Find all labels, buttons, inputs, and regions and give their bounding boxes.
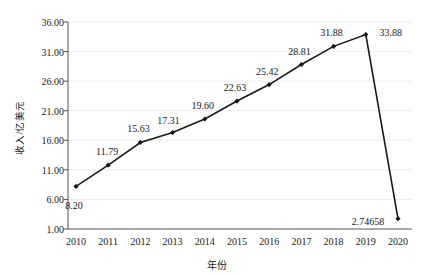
x-axis-title-text: 年份 [207, 260, 227, 271]
x-axis-tick-label: 2011 [98, 236, 118, 247]
line-chart: 收入/亿美元 1.006.0011.0016.0021.0026.0031.00… [0, 0, 434, 274]
x-axis-tick-label: 2010 [66, 236, 86, 247]
x-axis-title: 年份 [0, 257, 434, 272]
data-point-label: 28.81 [288, 45, 311, 56]
axis-lines [68, 22, 412, 229]
gridlines [68, 22, 412, 199]
data-point-label: 33.88 [380, 26, 403, 37]
x-axis-tick-label: 2013 [163, 236, 183, 247]
plot-area [0, 0, 434, 274]
data-point-marker[interactable] [395, 216, 400, 221]
x-axis-tick-label: 2012 [130, 236, 150, 247]
data-point-label: 8.20 [65, 200, 83, 211]
x-axis-tick-label: 2015 [227, 236, 247, 247]
x-axis-tick-label: 2018 [324, 236, 344, 247]
data-point-label: 2.74658 [352, 215, 385, 226]
x-axis-tick-label: 2016 [259, 236, 279, 247]
x-axis-tick-label: 2020 [388, 236, 408, 247]
data-point-label: 31.88 [320, 27, 343, 38]
x-axis-tick-label: 2019 [356, 236, 376, 247]
data-point-label: 17.31 [157, 114, 180, 125]
data-point-label: 25.42 [256, 65, 279, 76]
data-point-marker[interactable] [170, 130, 175, 135]
data-point-markers [73, 32, 400, 221]
data-point-label: 15.63 [127, 123, 150, 134]
data-point-label: 11.79 [96, 146, 118, 157]
y-axis-ticks [64, 22, 68, 229]
x-axis-tick-label: 2017 [291, 236, 311, 247]
data-point-label: 22.63 [224, 82, 247, 93]
x-axis-tick-label: 2014 [195, 236, 215, 247]
series-line [76, 35, 398, 219]
data-point-marker[interactable] [363, 32, 368, 37]
data-point-label: 19.60 [192, 99, 215, 110]
